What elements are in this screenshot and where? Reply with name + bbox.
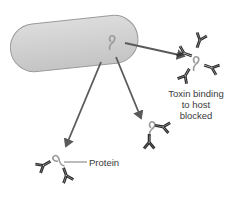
arrow-to-protein-complex bbox=[66, 62, 101, 146]
toxin-label-line1: Toxin binding bbox=[160, 88, 232, 99]
antibody-icon bbox=[202, 60, 220, 76]
bacterium-cell bbox=[8, 13, 140, 74]
toxin-label-line3: blocked bbox=[160, 110, 232, 121]
toxin-binding-blocked-label: Toxin binding to host blocked bbox=[160, 88, 232, 121]
antibody-icon bbox=[176, 45, 194, 61]
neutralized-toxin-complex bbox=[176, 32, 221, 85]
middle-toxin-complex bbox=[143, 120, 170, 149]
antibody-icon bbox=[177, 66, 195, 85]
protein-antibody-complex bbox=[35, 155, 74, 184]
protein-label: Protein bbox=[89, 157, 119, 168]
antibody-icon bbox=[58, 166, 74, 184]
toxin-label-line2: to host bbox=[160, 99, 232, 110]
antibody-icon bbox=[35, 156, 54, 174]
antibody-icon bbox=[192, 32, 208, 50]
antibody-icon bbox=[143, 134, 155, 149]
arrow-to-middle-complex bbox=[116, 57, 141, 118]
antibody-icon bbox=[154, 120, 171, 134]
